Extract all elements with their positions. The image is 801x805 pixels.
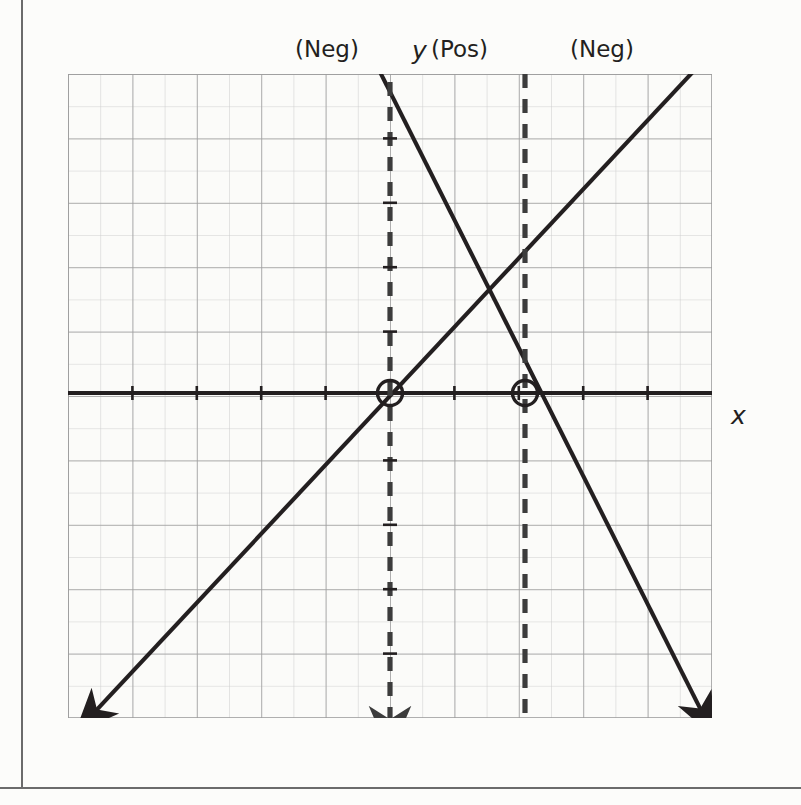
x-axis-label: x (731, 403, 746, 428)
y-axis-label: y (412, 38, 427, 63)
sign-label-pos-middle: (Pos) (431, 38, 488, 61)
worksheet-page: (Neg) (Pos) (Neg) y x h(x) ℓ(x) -8 -6 -4… (0, 0, 801, 805)
page-rule-bottom (0, 787, 801, 789)
sign-label-neg-right: (Neg) (570, 38, 634, 61)
coordinate-plane (68, 74, 712, 718)
sign-label-neg-left: (Neg) (295, 38, 359, 61)
page-rule-left (21, 0, 23, 789)
